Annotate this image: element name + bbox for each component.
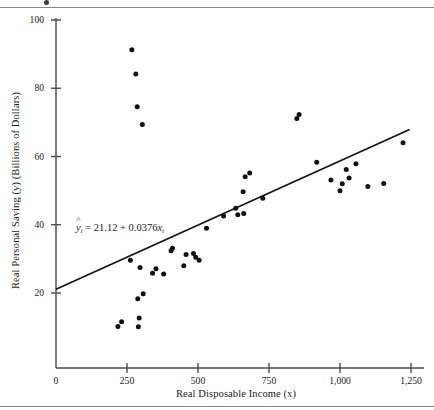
equation-hat-mark: ^ [76,215,81,225]
scatter-points-group [115,47,405,329]
scatter-point [129,47,134,52]
equation-lhs-subscript: t [81,227,83,235]
x-axis-title: Real Disposable Income (x) [56,388,416,399]
x-tick-label: 750 [249,375,289,386]
scatter-point [136,324,141,329]
x-tick-label: 1,000 [320,375,360,386]
scatter-point [128,258,133,263]
scatter-point [115,324,120,329]
scatter-point [247,170,252,175]
scatter-point [181,263,186,268]
scatter-point [365,184,370,189]
y-axis-title: Real Personal Saving (y) (Billions of Do… [10,26,21,356]
y-axis-title-text: Real Personal Saving (y) (Billions of Do… [10,92,21,289]
scatter-point [297,112,302,117]
regression-equation-annotation: y^t = 21.12 + 0.0376xt [76,222,164,233]
scatter-point [314,160,319,165]
scatter-point [161,271,166,276]
scatter-point [235,212,240,217]
equation-lhs-symbol: y^ [76,222,81,233]
scatter-point [353,161,358,166]
scatter-point [170,246,175,251]
scatter-point [119,319,124,324]
scatter-point [338,188,343,193]
scatter-point [381,181,386,186]
scatter-point [135,296,140,301]
scatter-point [204,226,209,231]
equation-x-subscript: t [162,227,164,235]
plot-canvas [0,0,434,410]
y-tick-label: 100 [10,14,44,25]
scatter-point [243,174,248,179]
scatter-point [221,213,226,218]
equation-intercept-value: 21.12 [94,222,118,233]
scatter-point [133,71,138,76]
scatter-point [260,196,265,201]
regression-fit-line [56,129,410,289]
scatter-point [138,265,143,270]
scatter-plot-figure: 20406080100 02505007501,0001,250 Real Pe… [0,0,434,410]
scatter-point [184,252,189,257]
equation-plus-sign: + [120,222,126,233]
x-tick-label: 250 [107,375,147,386]
scatter-point [137,315,142,320]
scatter-point [241,189,246,194]
x-tick-label: 1,250 [391,375,431,386]
scatter-point [241,211,246,216]
x-axis-title-text: Real Disposable Income (x) [176,388,296,399]
scatter-point [344,167,349,172]
axes-group [56,18,424,368]
scatter-point [135,104,140,109]
x-tick-label: 500 [178,375,218,386]
scatter-point [153,266,158,271]
equation-equals-sign: = [85,222,91,233]
scatter-point [140,122,145,127]
regression-line-group [56,129,410,289]
scatter-point [197,258,202,263]
scatter-point [328,178,333,183]
equation-slope-value: 0.0376 [129,222,158,233]
scatter-point [141,291,146,296]
scatter-point [150,271,155,276]
x-tick-label: 0 [36,375,76,386]
scatter-point [347,175,352,180]
scatter-point [401,140,406,145]
scatter-point [340,181,345,186]
scatter-point [233,206,238,211]
